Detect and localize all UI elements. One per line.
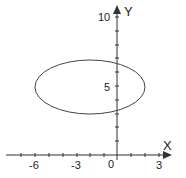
x-tick-label: 0: [108, 158, 114, 170]
x-tick-label: -6: [29, 159, 39, 171]
ellipse-curve: [35, 60, 145, 114]
y-tick-label: 5: [104, 81, 110, 93]
y-axis-arrow-icon: [113, 5, 121, 14]
x-axis-label: X: [163, 138, 172, 153]
chart-plot: -6 -3 0 3 5 10 Y X: [0, 0, 186, 178]
x-tick-label: 3: [156, 159, 162, 171]
y-axis-label: Y: [124, 4, 133, 19]
x-tick-label: -3: [71, 159, 81, 171]
y-tick-label: 10: [98, 11, 110, 23]
